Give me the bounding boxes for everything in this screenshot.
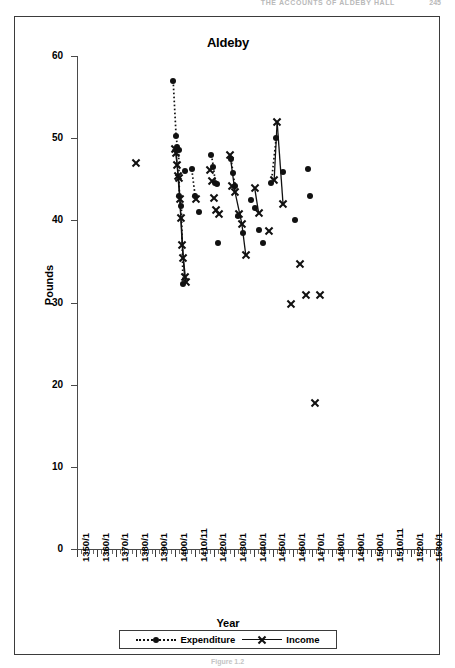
x-minor-tick [328, 550, 329, 554]
x-minor-tick [289, 550, 290, 554]
x-minor-tick [367, 550, 368, 554]
data-point-income [254, 208, 263, 217]
x-tick-1470 [312, 550, 313, 557]
chart-title: Aldeby [15, 35, 441, 50]
data-point-income [230, 187, 239, 196]
x-tick-1510 [391, 550, 392, 557]
legend-swatch-expenditure [136, 635, 176, 645]
data-point-income [301, 290, 310, 299]
x-minor-tick [171, 550, 172, 554]
data-point-income [295, 259, 304, 268]
x-minor-tick [112, 550, 113, 554]
x-minor-tick [250, 550, 251, 554]
x-tick-1430 [234, 550, 235, 557]
legend-swatch-income [242, 635, 282, 645]
data-point-income [191, 194, 200, 203]
data-point-income [279, 199, 288, 208]
data-point-income [286, 299, 295, 308]
figure-caption: Figure 1.2 [0, 658, 455, 665]
x-tick-1370 [116, 550, 117, 557]
data-point-expenditure [248, 197, 254, 203]
data-point-income [208, 176, 217, 185]
x-tick-1350 [77, 550, 78, 557]
data-point-income [241, 250, 250, 259]
x-minor-tick [426, 550, 427, 554]
figure-frame: Aldeby Pounds 0102030405060 1350/11360/1… [14, 16, 440, 655]
x-tick-1450 [273, 550, 274, 557]
x-tick-1410 [195, 550, 196, 557]
data-point-income [173, 160, 182, 169]
x-tick-1400 [175, 550, 176, 557]
data-point-income [270, 175, 279, 184]
x-minor-tick [387, 550, 388, 554]
x-tick-1380 [136, 550, 137, 557]
x-minor-tick [348, 550, 349, 554]
x-tick-1390 [155, 550, 156, 557]
data-point-income [316, 290, 325, 299]
x-tick-1460 [293, 550, 294, 557]
x-tick-1480 [332, 550, 333, 557]
y-tick-label-20: 20 [19, 380, 63, 390]
data-point-expenditure [307, 193, 313, 199]
y-axis-title: Pounds [43, 240, 55, 330]
data-point-income [176, 213, 185, 222]
data-point-expenditure [260, 240, 266, 246]
y-tick-label-50: 50 [19, 133, 63, 143]
x-minor-tick [93, 550, 94, 554]
data-point-expenditure [170, 78, 176, 84]
data-point-income [273, 117, 282, 126]
x-tick-1530 [430, 550, 431, 557]
data-point-income [179, 253, 188, 262]
data-point-income [311, 398, 320, 407]
y-tick-label-0: 0 [19, 544, 63, 554]
series-line-expenditure [192, 169, 195, 195]
data-point-income [178, 240, 187, 249]
data-point-expenditure [196, 209, 202, 215]
data-point-expenditure [240, 230, 246, 236]
x-minor-tick [132, 550, 133, 554]
x-minor-tick [407, 550, 408, 554]
data-point-income [210, 193, 219, 202]
data-point-expenditure [280, 169, 286, 175]
data-point-income [174, 173, 183, 182]
data-point-income [226, 150, 235, 159]
legend-label-expenditure: Expenditure [180, 634, 235, 645]
y-tick-label-40: 40 [19, 215, 63, 225]
x-minor-tick [309, 550, 310, 554]
y-tick-label-60: 60 [19, 51, 63, 61]
x-tick-1490 [352, 550, 353, 557]
data-point-income [215, 209, 224, 218]
x-tick-1420 [214, 550, 215, 557]
x-axis-title: Year [15, 617, 441, 629]
data-point-expenditure [305, 166, 311, 172]
data-point-income [172, 148, 181, 157]
data-point-income [265, 226, 274, 235]
data-point-expenditure [173, 133, 179, 139]
page-folio-number: 245 [429, 0, 441, 6]
x-minor-tick [210, 550, 211, 554]
legend-label-income: Income [286, 634, 319, 645]
x-tick-1500 [371, 550, 372, 557]
series-line-income [277, 122, 283, 204]
legend-item-expenditure: Expenditure [136, 634, 235, 645]
data-point-income [250, 183, 259, 192]
series-connector-lines [77, 56, 440, 549]
data-point-income [181, 277, 190, 286]
y-tick-label-30: 30 [19, 298, 63, 308]
data-point-income [234, 209, 243, 218]
chart-legend: Expenditure Income [119, 630, 337, 649]
data-point-expenditure [230, 170, 236, 176]
data-point-income [206, 165, 215, 174]
plot-area [77, 56, 440, 549]
x-minor-tick [230, 550, 231, 554]
y-tick-label-10: 10 [19, 462, 63, 472]
data-point-income [237, 219, 246, 228]
x-tick-1520 [411, 550, 412, 557]
running-header-text: THE ACCOUNTS OF ALDEBY HALL [261, 0, 395, 6]
x-minor-tick [191, 550, 192, 554]
x-minor-tick [269, 550, 270, 554]
x-tick-1440 [254, 550, 255, 557]
running-header: THE ACCOUNTS OF ALDEBY HALL 245 [0, 0, 455, 14]
legend-item-income: Income [242, 634, 319, 645]
x-tick-1360 [97, 550, 98, 557]
